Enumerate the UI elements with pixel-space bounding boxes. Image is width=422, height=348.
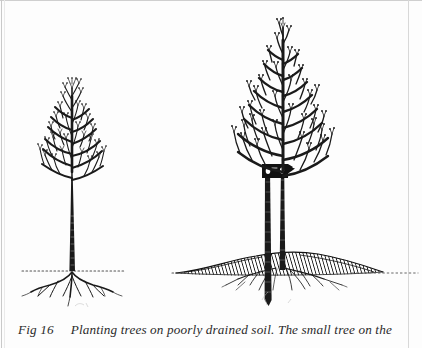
soil-mound bbox=[176, 252, 383, 275]
left-tree-illustration bbox=[22, 77, 124, 306]
figure-caption-text: Planting trees on poorly drained soil. T… bbox=[71, 322, 392, 337]
figure-illustration bbox=[0, 0, 422, 312]
left-tree-trunk bbox=[69, 170, 75, 271]
figure-number: Fig 16 bbox=[18, 322, 54, 337]
right-tree-illustration bbox=[172, 17, 418, 306]
figure-caption: Fig 16Planting trees on poorly drained s… bbox=[18, 322, 408, 338]
scanned-page: Fig 16Planting trees on poorly drained s… bbox=[0, 0, 422, 348]
tree-stake bbox=[265, 170, 272, 306]
right-tree-trunk bbox=[280, 168, 286, 270]
scan-speckles bbox=[75, 292, 291, 307]
left-tree-roots bbox=[22, 272, 122, 306]
